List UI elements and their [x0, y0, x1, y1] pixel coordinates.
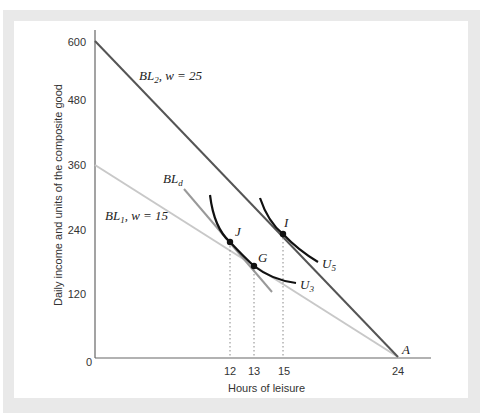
y-tick-360: 360: [68, 159, 86, 171]
point-i: [280, 231, 286, 237]
y-axis-label: Daily income and units of the composite …: [52, 84, 64, 306]
label-j: J: [235, 224, 242, 239]
x-tick-24: 24: [392, 365, 404, 377]
point-j: [227, 239, 233, 245]
label-i: I: [283, 215, 289, 230]
label-bl2: BL2, w = 25: [139, 68, 203, 85]
label-bld: BLd: [163, 171, 183, 188]
x-tick-12: 12: [224, 365, 236, 377]
y-tick-480: 480: [68, 94, 86, 106]
y-tick-240: 240: [68, 224, 86, 236]
label-g: G: [258, 250, 268, 265]
label-u3: U3: [300, 277, 314, 294]
y-tick-120: 120: [68, 288, 86, 300]
y-tick-600: 600: [68, 36, 86, 48]
point-g: [251, 263, 257, 269]
budget-line-bl2: [95, 41, 398, 357]
x-tick-15: 15: [278, 365, 290, 377]
x-tick-13: 13: [248, 365, 260, 377]
origin-label: 0: [86, 356, 92, 368]
label-u5: U5: [322, 256, 336, 273]
label-a: A: [401, 342, 410, 357]
chart: 600 480 360 240 120 0 12 13 15 24 Hours …: [0, 0, 488, 413]
x-axis-label: Hours of leisure: [228, 382, 305, 394]
indifference-curve-u5: [260, 198, 318, 262]
label-bl1: BL1, w = 15: [105, 208, 169, 225]
